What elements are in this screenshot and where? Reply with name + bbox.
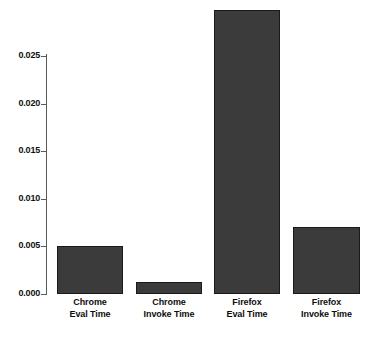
y-tick-label-4: 0.020 [6,99,40,108]
bar-chrome-invoke-time [136,282,202,294]
bar-chart: 0.000 0.005 0.010 0.015 0.020 0.025 Chro… [0,0,373,340]
bar-firefox-invoke-time [293,227,360,294]
plot-area: 0.000 0.005 0.010 0.015 0.020 0.025 Chro… [0,0,373,340]
y-tick-mark-0 [41,294,47,295]
x-axis-label-line2: Eval Time [214,309,280,321]
y-tick-label-2-wrap: 0.010 [2,194,40,204]
x-axis-label-line1: Chrome [152,297,185,307]
y-tick-label-3: 0.015 [6,146,40,155]
y-tick-mark-5 [41,56,47,57]
x-axis-label-line1: Firefox [232,297,261,307]
y-tick-label-1: 0.005 [6,241,40,250]
y-tick-label-2: 0.010 [6,194,40,203]
x-axis-label-line2: Invoke Time [136,309,202,321]
x-axis-label-chrome-eval-time: Chrome Eval Time [57,297,123,320]
x-axis-label-line2: Invoke Time [293,309,360,321]
y-axis-line [46,54,47,295]
x-axis-label-firefox-eval-time: Firefox Eval Time [214,297,280,320]
x-axis-label-chrome-invoke-time: Chrome Invoke Time [136,297,202,320]
y-tick-mark-4 [41,104,47,105]
y-tick-mark-3 [41,151,47,152]
x-axis-label-line1: Chrome [73,297,106,307]
x-axis-label-firefox-invoke-time: Firefox Invoke Time [293,297,360,320]
bar-firefox-eval-time [214,10,280,294]
x-axis-label-line2: Eval Time [57,309,123,321]
y-tick-label-0-wrap: 0.000 [2,289,40,299]
y-tick-label-4-wrap: 0.020 [2,99,40,109]
y-tick-mark-2 [41,199,47,200]
y-tick-label-1-wrap: 0.005 [2,241,40,251]
x-axis-label-line1: Firefox [312,297,341,307]
y-tick-label-0: 0.000 [6,289,40,298]
bar-chrome-eval-time [57,246,123,294]
y-tick-label-5-wrap: 0.025 [2,51,40,61]
y-tick-mark-1 [41,246,47,247]
y-tick-label-3-wrap: 0.015 [2,146,40,156]
y-tick-label-5: 0.025 [6,51,40,60]
